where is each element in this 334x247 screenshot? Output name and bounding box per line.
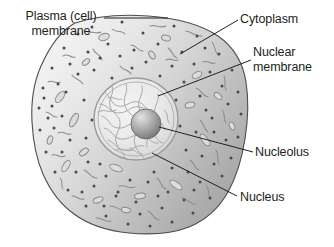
label-nuclear-membrane: Nuclearmembrane xyxy=(253,45,312,74)
label-nuclear-membrane-line1: Nuclear xyxy=(253,45,295,59)
label-nucleolus: Nucleolus xyxy=(255,145,309,159)
nucleolus-sphere xyxy=(131,109,161,139)
label-plasma-membrane-line1: Plasma (cell) xyxy=(26,9,97,23)
label-nuclear-membrane-line2: membrane xyxy=(253,60,312,74)
cell-diagram-figure: Plasma (cell)membrane Cytoplasm Nuclearm… xyxy=(0,0,334,247)
label-plasma-membrane-line2: membrane xyxy=(32,24,91,38)
label-nucleus: Nucleus xyxy=(240,190,284,204)
label-plasma-membrane: Plasma (cell)membrane xyxy=(6,9,116,38)
label-cytoplasm: Cytoplasm xyxy=(240,12,298,26)
